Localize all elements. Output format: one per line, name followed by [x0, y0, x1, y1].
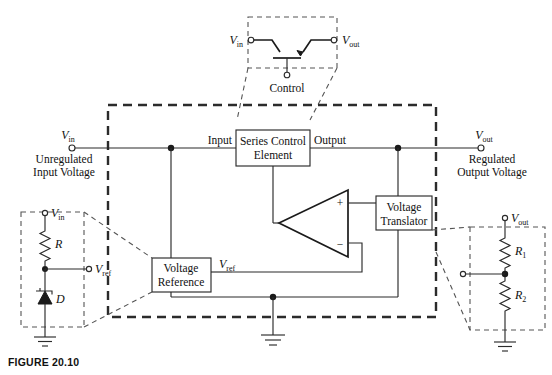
divider-detail-ground-symbol	[494, 342, 516, 351]
transistor-leader-right	[310, 68, 337, 120]
vin-terminal	[69, 145, 75, 151]
control-label: Control	[269, 82, 304, 94]
amplifier-plus-label: +	[337, 197, 344, 209]
transistor-leader-left	[237, 68, 248, 120]
divider-detail-vout-label: Vout	[511, 211, 529, 227]
amplifier-minus-label: −	[337, 238, 344, 250]
series-control-element-line1: Series Control	[240, 135, 306, 147]
voltage-reference-line1: Voltage	[164, 262, 199, 275]
reference-detail-vin-terminal	[42, 210, 47, 215]
reference-detail-diode-label: D	[55, 292, 65, 306]
reference-detail-vref-terminal	[86, 266, 91, 271]
divider-detail-box	[470, 227, 545, 330]
reference-leader-top	[84, 212, 152, 258]
vout-main-label: Vout	[475, 128, 493, 144]
vout-caption-line1: Regulated	[469, 153, 516, 166]
series-control-output-port-label: Output	[314, 134, 347, 147]
figure-container: Vin Vout Control Series Control Element …	[0, 0, 552, 375]
vref-rail-label: Vref	[219, 257, 236, 273]
voltage-translator-line2: Translator	[381, 215, 428, 227]
reference-detail-resistor-R	[40, 227, 50, 266]
transistor-vin-label: Vin	[229, 33, 243, 49]
divider-detail-vout-terminal	[502, 215, 507, 220]
transistor-vout-label: Vout	[342, 33, 360, 49]
vout-terminal	[478, 145, 484, 151]
transistor-collector-wire	[254, 40, 280, 52]
divider-detail-resistor-R1	[500, 234, 510, 272]
divider-detail-r2-label: R2	[514, 288, 526, 304]
divider-detail-r1-label: R1	[514, 244, 526, 260]
error-amplifier-group: + −	[232, 190, 376, 272]
divider-leader-bottom	[436, 252, 470, 330]
vin-caption-line1: Unregulated	[36, 153, 93, 166]
reference-detail-vin-label: Vin	[51, 206, 65, 222]
transistor-vout-terminal	[331, 37, 337, 43]
reference-leader-bottom	[84, 292, 152, 327]
control-terminal	[284, 72, 290, 78]
divider-detail-resistor-R2	[500, 277, 510, 316]
divider-leader-top	[432, 227, 470, 230]
transistor-vin-terminal	[248, 37, 254, 43]
vin-caption-line2: Input Voltage	[33, 166, 95, 179]
reference-detail-ground-symbol	[34, 337, 56, 346]
series-control-element-line2: Element	[254, 149, 293, 161]
voltage-translator-line1: Voltage	[387, 201, 422, 214]
transistor-emitter-wire	[303, 40, 331, 52]
circuit-diagram-svg: Vin Vout Control Series Control Element …	[0, 0, 552, 375]
reference-detail-group: Vin R Vref D	[21, 206, 152, 346]
series-control-input-port-label: Input	[208, 134, 233, 147]
reference-detail-resistor-label: R	[54, 237, 63, 251]
voltage-reference-line2: Reference	[158, 276, 205, 288]
figure-caption: FIGURE 20.10	[8, 356, 79, 368]
divider-detail-group: Vout R1 R2	[432, 211, 545, 351]
transistor-detail-box	[248, 17, 337, 68]
vin-main-label: Vin	[61, 128, 75, 144]
transistor-emitter-arrow	[297, 51, 303, 57]
reference-detail-diode-triangle	[38, 291, 52, 304]
main-ground-symbol	[261, 335, 285, 345]
divider-detail-feedback-terminal	[460, 271, 465, 276]
vout-caption-line2: Output Voltage	[457, 166, 527, 179]
